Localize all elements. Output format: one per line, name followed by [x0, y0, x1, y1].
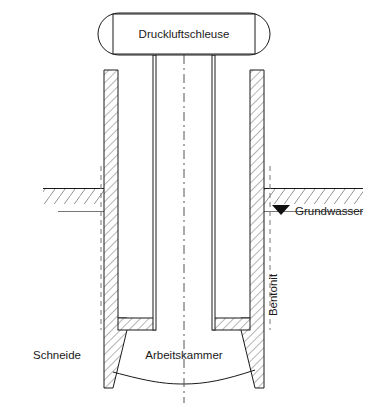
bentonite-lines	[101, 166, 270, 330]
caisson-wall-right	[241, 70, 264, 388]
shaft-wall-right	[212, 55, 215, 330]
caisson-left-profile	[104, 70, 127, 388]
caisson-wall-left	[104, 70, 127, 388]
cutting-edge-label: Schneide	[33, 349, 81, 361]
ground-left	[43, 189, 112, 212]
chamber-roof-right-slab	[213, 318, 250, 330]
shaft-wall-left	[153, 55, 156, 330]
groundwater-triangle-icon	[272, 205, 290, 215]
ground-hatching-right	[258, 189, 363, 204]
bentonite-label: Bentonit	[267, 273, 279, 316]
working-chamber-label: Arbeitskammer	[145, 349, 222, 361]
caisson-diagram: Druckluftschleuse Grundwasser Bentonit S…	[0, 0, 371, 413]
airlock-vessel: Druckluftschleuse	[98, 13, 270, 55]
caisson-right-profile	[241, 70, 264, 388]
chamber-roof-left-slab	[118, 318, 155, 330]
groundwater-label: Grundwasser	[295, 205, 364, 217]
airlock-label: Druckluftschleuse	[139, 28, 230, 40]
caisson-cross-section-svg: Druckluftschleuse Grundwasser Bentonit S…	[0, 0, 371, 413]
